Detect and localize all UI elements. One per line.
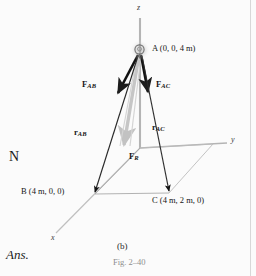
vector-label-F-AB: FAB — [82, 80, 96, 90]
base-edge-C-to-yaxis — [169, 144, 213, 193]
vector-F-AC — [141, 55, 148, 92]
vector-subscript-r-AC: AC — [156, 125, 165, 132]
vector-label-F-AC: FAC — [156, 80, 170, 90]
x-axis-label: x — [51, 234, 55, 242]
z-axis-label: z — [137, 4, 140, 12]
vector-subscript-F-AC: AC — [161, 82, 170, 89]
base-edge-yaxis-to-O — [140, 144, 213, 148]
margin-ans-text: Ans. — [6, 248, 29, 261]
vector-label-F-R: FR — [129, 152, 139, 162]
figure-page: z y x A (0, 0, 4 m) B (4 m, 0, 0) C (4 m… — [0, 0, 256, 276]
free-body-diagram — [0, 0, 256, 276]
margin-unit-text: N — [9, 150, 19, 164]
y-axis-label: y — [231, 136, 235, 144]
point-label-B: B (4 m, 0, 0) — [21, 187, 64, 196]
page-edge-rule — [250, 0, 251, 276]
figure-part-caption: (b) — [117, 242, 128, 251]
vector-F-R-edge-left — [120, 56, 137, 146]
base-edge-B-to-C — [95, 193, 169, 194]
vector-label-r-AC: rAC — [152, 123, 165, 133]
base-plane-outline — [95, 144, 213, 194]
vector-subscript-r-AB: AB — [78, 130, 87, 137]
vector-subscript-F-AB: AB — [87, 82, 96, 89]
figure-number-caption: Fig. 2–40 — [113, 258, 146, 267]
point-label-C: C (4 m, 2 m, 0) — [152, 196, 204, 205]
vector-label-r-AB: rAB — [74, 128, 87, 138]
point-label-A: A (0, 0, 4 m) — [152, 44, 195, 53]
vector-F-AC-shaft — [141, 55, 148, 92]
vector-subscript-F-R: R — [134, 154, 138, 161]
ring-hook-icon — [130, 40, 151, 61]
